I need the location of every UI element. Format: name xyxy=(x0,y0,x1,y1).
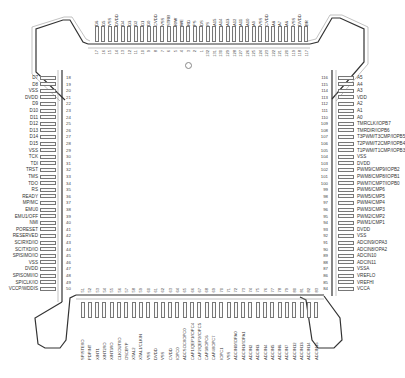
pin-pad xyxy=(212,26,216,42)
pin-number: 115 xyxy=(321,82,328,87)
pin-label: TMRDIR/IOPB6 xyxy=(357,128,390,133)
pin-pad xyxy=(40,181,56,185)
pin-number: 54 xyxy=(102,288,107,292)
pin-pad xyxy=(338,227,354,231)
pin-pad xyxy=(40,122,56,126)
pin-label: CVDD xyxy=(264,4,269,26)
pin-pad xyxy=(197,302,201,318)
pin-number: 44 xyxy=(66,247,71,252)
pin-number: 124 xyxy=(258,50,263,57)
pin-number: 34 xyxy=(66,181,71,186)
pin-pad xyxy=(40,109,56,113)
pin-number: 130 xyxy=(218,50,223,57)
pin-label: OSCBYP xyxy=(124,320,129,360)
pin-number: 108 xyxy=(321,128,328,133)
pin-label: D3 xyxy=(127,4,132,26)
pin-number: 7 xyxy=(160,50,165,52)
pin-pad xyxy=(193,26,197,42)
pin-pad xyxy=(338,89,354,93)
pin-pad xyxy=(338,247,354,251)
pin-pad xyxy=(190,302,194,318)
pin-label: PS xyxy=(192,4,197,26)
pin-label: T2PWM/T2CMP/IOPB4 xyxy=(357,141,405,146)
pin-number: 52 xyxy=(87,288,92,292)
pin-pad xyxy=(304,26,308,42)
pin-number: 107 xyxy=(321,134,328,139)
pin-label: A10 xyxy=(245,4,250,26)
pin-pad xyxy=(338,115,354,119)
pin-number: 14 xyxy=(114,50,119,54)
pin-number: 119 xyxy=(291,50,296,56)
pin-number: 57 xyxy=(124,288,129,292)
pin-label: RESERVED xyxy=(13,233,38,238)
pin-number: 33 xyxy=(66,174,71,179)
pin-pad xyxy=(40,168,56,172)
pin-number: 85 xyxy=(323,280,328,285)
pin-pad xyxy=(40,102,56,106)
pin-pad xyxy=(40,247,56,251)
pin-number: 89 xyxy=(323,253,328,258)
pin-pad xyxy=(40,76,56,80)
pin-label: ADCIN14 xyxy=(306,320,311,360)
pin-label: VCCA xyxy=(357,286,370,291)
pin-number: 103 xyxy=(321,161,328,166)
pin-label: XINT3/IO xyxy=(109,320,114,360)
pin-number: 51 xyxy=(80,288,85,292)
pin-number: 3 xyxy=(186,50,191,52)
pin-number: 125 xyxy=(251,50,256,57)
pin-pad xyxy=(40,254,56,258)
pin-pad xyxy=(338,234,354,238)
pin-pad xyxy=(338,188,354,192)
pin-pad xyxy=(127,26,131,42)
pin-label: IOPC0 xyxy=(175,320,180,360)
pin-number: 38 xyxy=(66,207,71,212)
pin-number: 76 xyxy=(263,288,268,292)
pin-pad xyxy=(40,208,56,212)
pin-label: BR xyxy=(304,4,309,26)
pin-pad xyxy=(160,26,164,42)
pin-number: 42 xyxy=(66,233,71,238)
pin-pad xyxy=(270,302,274,318)
pin-number: 127 xyxy=(238,50,243,57)
pin-pad xyxy=(278,302,282,318)
pin-pad xyxy=(110,302,114,318)
pin-number: 95 xyxy=(323,214,328,219)
pin-pad xyxy=(40,95,56,99)
pin-number: 62 xyxy=(160,288,165,292)
pin-label: CAP2/QEP2/IOPC5 xyxy=(197,320,202,360)
pin-number: 17 xyxy=(94,50,99,54)
pin-number: 73 xyxy=(241,288,246,292)
pin-pad xyxy=(40,175,56,179)
pin-label: SPISTE/IO xyxy=(80,320,85,360)
pin-label: D2 xyxy=(133,4,138,26)
pin-number: 6 xyxy=(166,50,171,52)
pin-number: 78 xyxy=(277,288,282,292)
pin-pad xyxy=(307,302,311,318)
pin-number: 49 xyxy=(66,280,71,285)
pin-pad xyxy=(40,142,56,146)
pin-pad xyxy=(265,26,269,42)
pin-number: 22 xyxy=(66,101,71,106)
pin-pad xyxy=(183,302,187,318)
pin-number: 101 xyxy=(321,174,328,179)
pin-pad xyxy=(239,26,243,42)
pin-pad xyxy=(338,267,354,271)
pin-number: 9 xyxy=(146,50,151,52)
pin-number: 83 xyxy=(314,288,319,292)
pin-number: 114 xyxy=(321,88,328,93)
pin-number: 48 xyxy=(66,273,71,278)
pin-number: 126 xyxy=(245,50,250,57)
pin-pad xyxy=(300,302,304,318)
pin-label: XTAL1/CLKIN xyxy=(138,320,143,360)
pin-label: DVDD xyxy=(25,95,38,100)
pin-label: PDPINT xyxy=(87,320,92,360)
pin-pad xyxy=(338,95,354,99)
pin-label: A8 xyxy=(271,4,276,26)
pin-pad xyxy=(186,26,190,42)
pin-number: 121 xyxy=(277,50,282,57)
pin-number: 56 xyxy=(117,288,122,292)
pin-pad xyxy=(284,26,288,42)
pin-label: D0 xyxy=(146,4,151,26)
pin-pad xyxy=(40,128,56,132)
pin-number: 80 xyxy=(292,288,297,292)
